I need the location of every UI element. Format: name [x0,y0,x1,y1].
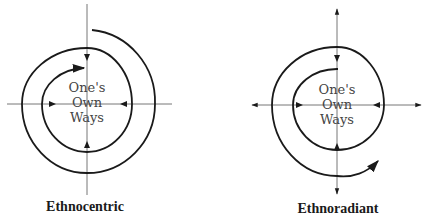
ethnoradiant-diagram: One's Own Ways Ethnoradiant [252,9,421,216]
arrow-up-icon [84,141,90,148]
center-text-line-1: One's [319,82,356,97]
arrow-right-icon [296,102,303,108]
arrow-right-icon [49,101,56,107]
caption-ethnocentric: Ethnocentric [46,199,124,214]
center-text-line-2: Own [72,95,103,110]
center-text-line-3: Ways [70,110,104,125]
arrow-down-icon [84,54,90,61]
arrow-up-icon [334,143,340,150]
diagram-canvas: One's Own Ways Ethnocentric One's Own Wa… [0,0,423,220]
arrow-down-icon [334,55,340,62]
center-text-line-3: Ways [320,112,354,127]
center-text-line-2: Own [322,97,353,112]
arrow-left-icon [373,102,380,108]
ethnocentric-diagram: One's Own Ways Ethnocentric [7,4,172,214]
caption-ethnoradiant: Ethnoradiant [298,201,379,216]
arrow-left-icon [120,101,127,107]
center-text-line-1: One's [69,80,106,95]
